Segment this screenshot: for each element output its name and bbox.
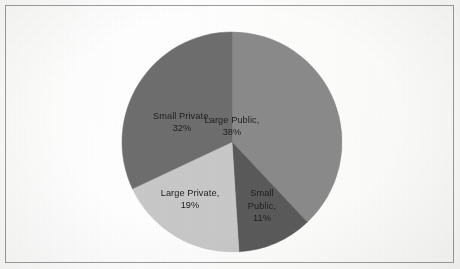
slice-label-small-public-line3: 11% [231,212,293,225]
slice-label-large-private-line2: 19% [140,199,240,212]
slice-label-small-public-line2: Public, [231,200,293,213]
slice-label-small-private-line1: Small Private, [132,110,232,123]
pie-chart: Large Public, 38% Small Public, 11% Larg… [0,0,460,269]
slice-label-small-private-line2: 32% [132,122,232,135]
slice-label-small-public: Small Public, 11% [231,187,293,225]
slice-label-large-private: Large Private, 19% [140,187,240,212]
slice-label-large-private-line1: Large Private, [140,187,240,200]
document-page: Large Public, 38% Small Public, 11% Larg… [0,0,460,269]
slice-label-small-private: Small Private, 32% [132,110,232,135]
slice-label-small-public-line1: Small [231,187,293,200]
